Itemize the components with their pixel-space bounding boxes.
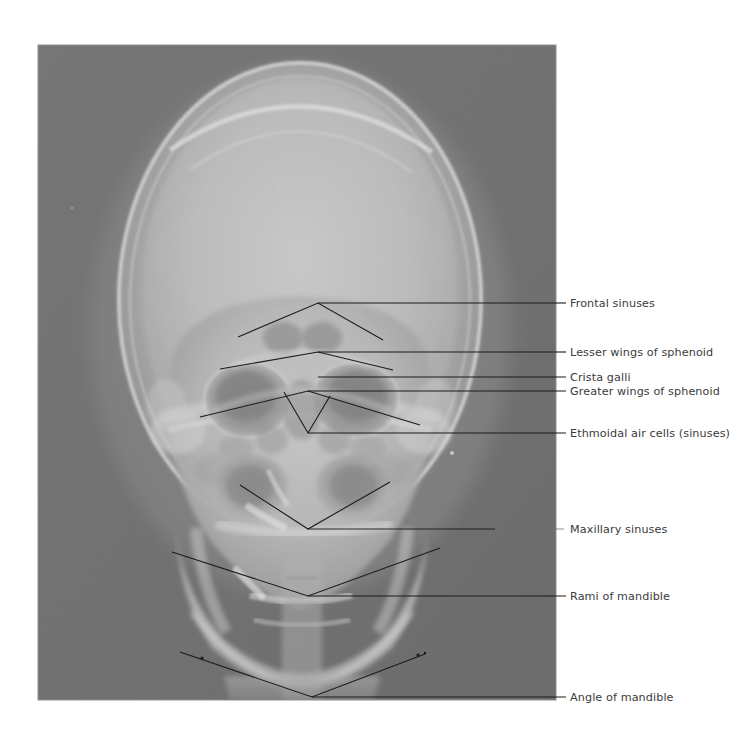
- annotated-skull-radiograph-figure: Frontal sinuses Lesser wings of sphenoid…: [0, 0, 750, 749]
- radiograph-image: [38, 45, 556, 700]
- label-rami-of-mandible: Rami of mandible: [570, 590, 670, 603]
- label-angle-of-mandible: Angle of mandible: [570, 691, 674, 704]
- label-greater-wings-of-sphenoid: Greater wings of sphenoid: [570, 385, 720, 398]
- figure-canvas: Frontal sinuses Lesser wings of sphenoid…: [0, 0, 750, 749]
- label-crista-galli: Crista galli: [570, 371, 631, 384]
- label-text-layer: Frontal sinuses Lesser wings of sphenoid…: [570, 297, 730, 704]
- label-frontal-sinuses: Frontal sinuses: [570, 297, 655, 310]
- label-maxillary-sinuses: Maxillary sinuses: [570, 523, 668, 536]
- label-lesser-wings-of-sphenoid: Lesser wings of sphenoid: [570, 346, 713, 359]
- label-ethmoidal-air-cells: Ethmoidal air cells (sinuses): [570, 427, 730, 440]
